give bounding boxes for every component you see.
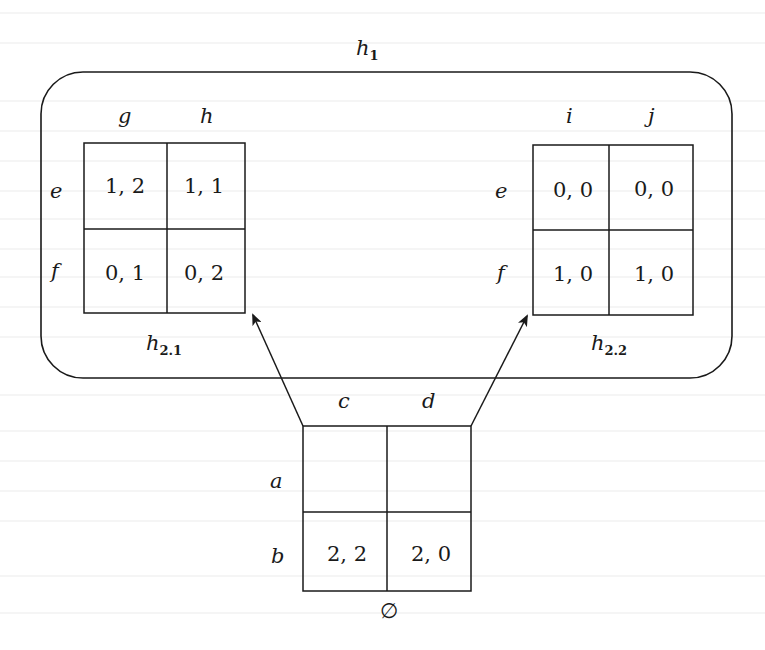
row-label-e: e bbox=[495, 179, 507, 203]
row-label-b: b bbox=[271, 544, 284, 568]
row-label-f: f bbox=[495, 261, 508, 285]
edge-arrow-to-h2-2 bbox=[471, 316, 527, 426]
payoff-cell-b-c: 2, 2 bbox=[327, 542, 367, 566]
col-label-i: i bbox=[566, 104, 573, 128]
col-label-j: j bbox=[644, 104, 655, 128]
col-label-c: c bbox=[338, 389, 350, 413]
subgame-h2-1-label: h2.1 bbox=[146, 331, 182, 358]
payoff-cell-e-j: 0, 0 bbox=[634, 177, 674, 201]
col-label-g: g bbox=[118, 104, 131, 128]
root-node-label-empty-set: ∅ bbox=[380, 599, 398, 623]
subgame-h2-2-label: h2.2 bbox=[591, 331, 627, 358]
col-label-h: h bbox=[200, 104, 214, 128]
payoff-cell-e-i: 0, 0 bbox=[553, 178, 593, 202]
history-set-h1-label: h1 bbox=[356, 36, 379, 63]
payoff-cell-f-g: 0, 1 bbox=[105, 261, 145, 285]
subgame-h2-1-grid-outline bbox=[84, 143, 245, 313]
payoff-cell-f-j: 1, 0 bbox=[634, 262, 674, 286]
history-set-h1: h1 bbox=[41, 36, 732, 378]
payoff-cell-e-h: 1, 1 bbox=[184, 174, 224, 198]
payoff-cell-f-i: 1, 0 bbox=[553, 262, 593, 286]
game-tree-diagram: h1 g h e f 1, 2 1, 1 0, 1 0, 2 h2.1 i j … bbox=[0, 0, 765, 650]
col-label-d: d bbox=[422, 389, 435, 413]
root-stage-game: c d a b 2, 2 2, 0 ∅ bbox=[270, 389, 471, 623]
row-label-a: a bbox=[270, 469, 283, 493]
row-label-e: e bbox=[50, 179, 62, 203]
payoff-cell-e-g: 1, 2 bbox=[105, 174, 145, 198]
row-label-f: f bbox=[49, 259, 62, 283]
history-set-h1-border bbox=[41, 72, 732, 378]
edge-arrow-to-h2-1 bbox=[253, 315, 303, 426]
payoff-cell-b-d: 2, 0 bbox=[411, 542, 451, 566]
payoff-cell-f-h: 0, 2 bbox=[184, 261, 224, 285]
subgame-h2-1: g h e f 1, 2 1, 1 0, 1 0, 2 h2.1 bbox=[49, 104, 245, 358]
